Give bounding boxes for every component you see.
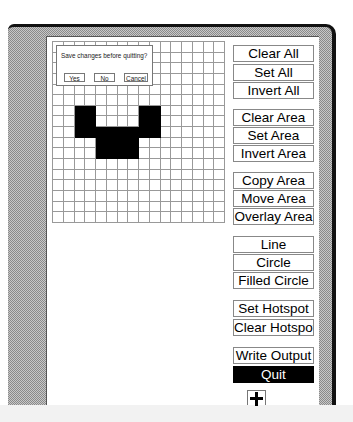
bitmap-cell[interactable] [128,191,139,202]
bitmap-cell[interactable] [139,116,150,127]
bitmap-cell[interactable] [150,106,161,117]
bitmap-cell[interactable] [75,106,86,117]
bitmap-cell[interactable] [53,159,64,170]
bitmap-cell[interactable] [193,180,204,191]
bitmap-cell[interactable] [75,170,86,181]
bitmap-cell[interactable] [182,74,193,85]
bitmap-cell[interactable] [204,159,215,170]
bitmap-cell[interactable] [96,212,107,223]
filled-circle-button[interactable]: Filled Circle [233,272,314,289]
set-hotspot-button[interactable]: Set Hotspot [233,300,314,317]
bitmap-cell[interactable] [139,95,150,106]
bitmap-cell[interactable] [171,127,182,138]
bitmap-cell[interactable] [161,191,172,202]
bitmap-cell[interactable] [193,148,204,159]
bitmap-cell[interactable] [161,74,172,85]
bitmap-cell[interactable] [161,63,172,74]
bitmap-cell[interactable] [150,138,161,149]
move-area-button[interactable]: Move Area [233,190,314,207]
bitmap-cell[interactable] [214,212,225,223]
bitmap-cell[interactable] [75,95,86,106]
bitmap-cell[interactable] [171,202,182,213]
bitmap-cell[interactable] [150,180,161,191]
bitmap-cell[interactable] [53,127,64,138]
bitmap-cell[interactable] [64,148,75,159]
bitmap-cell[interactable] [182,191,193,202]
bitmap-cell[interactable] [161,138,172,149]
bitmap-cell[interactable] [118,95,129,106]
bitmap-cell[interactable] [193,202,204,213]
bitmap-cell[interactable] [214,85,225,96]
bitmap-cell[interactable] [107,202,118,213]
bitmap-cell[interactable] [193,138,204,149]
bitmap-cell[interactable] [107,212,118,223]
cancel-button[interactable]: Cancel [124,73,148,82]
clear-area-button[interactable]: Clear Area [233,109,314,126]
bitmap-cell[interactable] [214,202,225,213]
bitmap-cell[interactable] [118,127,129,138]
clear-all-button[interactable]: Clear All [233,45,314,62]
set-all-button[interactable]: Set All [233,64,314,81]
bitmap-cell[interactable] [85,127,96,138]
bitmap-cell[interactable] [193,74,204,85]
bitmap-cell[interactable] [128,116,139,127]
bitmap-cell[interactable] [171,106,182,117]
bitmap-cell[interactable] [75,159,86,170]
bitmap-cell[interactable] [204,148,215,159]
set-area-button[interactable]: Set Area [233,127,314,144]
bitmap-cell[interactable] [161,180,172,191]
bitmap-cell[interactable] [171,95,182,106]
bitmap-cell[interactable] [128,170,139,181]
overlay-area-button[interactable]: Overlay Area [233,208,314,225]
bitmap-cell[interactable] [182,127,193,138]
bitmap-cell[interactable] [64,85,75,96]
bitmap-cell[interactable] [53,148,64,159]
bitmap-cell[interactable] [64,106,75,117]
bitmap-cell[interactable] [150,202,161,213]
bitmap-cell[interactable] [96,85,107,96]
bitmap-cell[interactable] [150,159,161,170]
bitmap-cell[interactable] [85,191,96,202]
bitmap-cell[interactable] [214,42,225,53]
bitmap-cell[interactable] [75,148,86,159]
bitmap-cell[interactable] [204,116,215,127]
bitmap-cell[interactable] [139,127,150,138]
bitmap-cell[interactable] [193,42,204,53]
bitmap-cell[interactable] [204,106,215,117]
bitmap-cell[interactable] [118,212,129,223]
bitmap-cell[interactable] [85,138,96,149]
bitmap-cell[interactable] [118,148,129,159]
bitmap-cell[interactable] [161,127,172,138]
bitmap-cell[interactable] [150,127,161,138]
bitmap-cell[interactable] [182,106,193,117]
bitmap-cell[interactable] [204,127,215,138]
bitmap-cell[interactable] [53,170,64,181]
bitmap-cell[interactable] [96,127,107,138]
bitmap-cell[interactable] [204,170,215,181]
bitmap-cell[interactable] [85,85,96,96]
bitmap-cell[interactable] [139,85,150,96]
bitmap-cell[interactable] [150,170,161,181]
bitmap-cell[interactable] [107,127,118,138]
bitmap-cell[interactable] [204,95,215,106]
bitmap-cell[interactable] [204,202,215,213]
bitmap-cell[interactable] [214,138,225,149]
bitmap-cell[interactable] [107,180,118,191]
bitmap-cell[interactable] [150,85,161,96]
invert-all-button[interactable]: Invert All [233,82,314,99]
bitmap-cell[interactable] [118,138,129,149]
bitmap-cell[interactable] [204,212,215,223]
bitmap-cell[interactable] [85,202,96,213]
bitmap-cell[interactable] [53,191,64,202]
bitmap-cell[interactable] [96,138,107,149]
bitmap-cell[interactable] [214,53,225,64]
bitmap-cell[interactable] [204,85,215,96]
bitmap-cell[interactable] [161,159,172,170]
bitmap-cell[interactable] [171,159,182,170]
bitmap-cell[interactable] [171,170,182,181]
bitmap-cell[interactable] [139,138,150,149]
bitmap-cell[interactable] [75,180,86,191]
bitmap-cell[interactable] [75,191,86,202]
bitmap-cell[interactable] [161,116,172,127]
bitmap-cell[interactable] [128,159,139,170]
